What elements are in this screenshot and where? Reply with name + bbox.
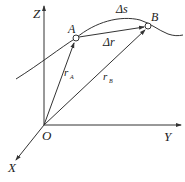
r-b-subscript: B	[109, 78, 113, 84]
delta-r-label: Δr	[102, 35, 115, 49]
origin-label: O	[42, 128, 52, 143]
point-b-label: B	[151, 10, 159, 24]
r-b-vector	[44, 30, 145, 125]
r-b-label: r	[103, 70, 108, 82]
y-axis-label: Y	[164, 129, 173, 144]
displacement-diagram: Z Y X O A B Δs Δr r A r B	[0, 0, 185, 182]
x-axis	[16, 125, 44, 160]
point-a-label: A	[67, 22, 76, 36]
r-a-label: r	[64, 66, 69, 78]
z-axis-label: Z	[33, 6, 41, 21]
delta-s-label: Δs	[115, 2, 128, 16]
trajectory-curve	[16, 18, 183, 79]
x-axis-label: X	[7, 160, 17, 175]
r-a-subscript: A	[69, 74, 74, 80]
r-a-vector	[44, 43, 74, 125]
